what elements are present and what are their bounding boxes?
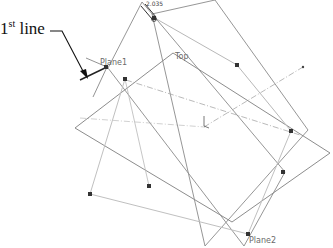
top-plane[interactable] xyxy=(75,53,330,222)
plane-drawing[interactable] xyxy=(0,0,333,248)
plane-edge-light xyxy=(90,194,248,234)
callout-leader xyxy=(50,31,84,73)
dimension-value[interactable]: 2.035 xyxy=(146,0,163,7)
plane1-label: Plane1 xyxy=(100,58,127,67)
axis-line xyxy=(80,118,205,127)
axis-endpoint xyxy=(302,66,304,68)
cad-graphics-area[interactable]: 1st line 2.035 Plane1 Top Plane2 xyxy=(0,0,333,248)
axis-line xyxy=(204,67,303,127)
plane2-label: Plane2 xyxy=(249,236,276,245)
direction-arrow xyxy=(93,67,107,97)
axis-line xyxy=(126,80,300,135)
plane-edge-light xyxy=(153,17,237,65)
plane-edge-light xyxy=(125,79,149,186)
top-plane-label: Top xyxy=(175,52,189,61)
plane-edge-light xyxy=(248,131,291,234)
plane-edge-light xyxy=(237,65,291,131)
first-line-callout: 1st line xyxy=(0,18,45,39)
plane-edge-light xyxy=(90,79,125,194)
